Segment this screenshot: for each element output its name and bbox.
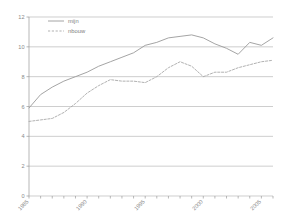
y-tick-label: 8	[21, 74, 24, 80]
line-chart: 024681012 19851990199520002005 mijnnbouw	[0, 0, 284, 223]
y-tick-label: 6	[21, 104, 24, 110]
legend-label-mijn: mijn	[68, 18, 79, 24]
y-tick-label: 0	[21, 193, 24, 199]
y-tick-label: 4	[21, 133, 24, 139]
y-tick-label: 12	[18, 14, 24, 20]
legend-label-nbouw: nbouw	[68, 28, 86, 34]
y-tick-label: 2	[21, 163, 24, 169]
y-tick-label: 10	[18, 44, 24, 50]
chart-background	[0, 0, 284, 223]
chart-canvas: 024681012 19851990199520002005 mijnnbouw	[0, 0, 284, 223]
